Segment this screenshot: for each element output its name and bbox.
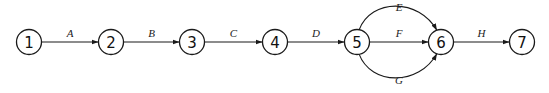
edge-label-f: F	[395, 27, 403, 39]
node-label: 6	[436, 34, 446, 52]
node-5: 5	[345, 30, 370, 55]
edge-label-d: D	[311, 27, 320, 39]
network-diagram: ABCDEFGH 1234567	[0, 0, 549, 93]
node-1: 1	[17, 30, 42, 55]
node-4: 4	[263, 30, 288, 55]
node-label: 7	[517, 34, 527, 52]
edge-label-b: B	[148, 27, 155, 39]
edge-label-c: C	[230, 27, 238, 39]
node-3: 3	[180, 30, 205, 55]
edge-label-a: A	[66, 27, 74, 39]
edge-label-e: E	[395, 1, 403, 13]
node-label: 3	[187, 34, 197, 52]
node-7: 7	[510, 30, 535, 55]
node-label: 2	[106, 34, 116, 52]
node-label: 4	[270, 34, 280, 52]
node-label: 5	[352, 34, 362, 52]
node-label: 1	[24, 34, 34, 52]
edge-label-g: G	[395, 74, 403, 86]
node-6: 6	[429, 30, 454, 55]
node-2: 2	[99, 30, 124, 55]
edge-label-h: H	[477, 27, 487, 39]
